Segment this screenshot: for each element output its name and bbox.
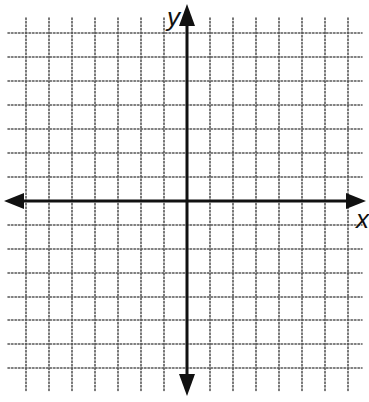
- y-axis-label: y: [167, 4, 180, 30]
- axes: [4, 4, 366, 396]
- x-axis-label: x: [356, 206, 369, 232]
- x-axis-left-arrow-icon: [4, 193, 24, 209]
- coordinate-plane: [0, 0, 369, 402]
- y-axis-down-arrow-icon: [179, 374, 195, 396]
- grid: [8, 18, 362, 392]
- y-axis-up-arrow-icon: [179, 4, 195, 26]
